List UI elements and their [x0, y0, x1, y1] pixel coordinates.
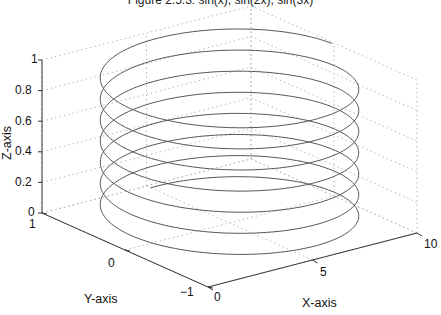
gridlines — [42, 6, 417, 287]
y-axis-label: Y-axis — [84, 292, 118, 306]
z-tick-0.6: 0.6 — [15, 114, 32, 128]
data-curve — [100, 29, 358, 254]
axes-frame — [38, 60, 422, 290]
z-tick-0.4: 0.4 — [15, 144, 32, 158]
z-tick-1: 1 — [31, 52, 38, 66]
x-tick-0: 0 — [214, 290, 221, 304]
z-tick-0.2: 0.2 — [15, 175, 32, 189]
z-tick-0.8: 0.8 — [15, 83, 32, 97]
x-axis-label: X-axis — [302, 296, 337, 310]
x-tick-10: 10 — [424, 237, 437, 251]
x-tick-5: 5 — [320, 265, 327, 279]
y-tick-0: 0 — [108, 256, 115, 270]
z-axis-label: Z-axis — [0, 126, 14, 160]
y-tick-neg1: −1 — [180, 285, 194, 299]
y-tick-1: 1 — [29, 217, 36, 231]
plot-area — [0, 0, 441, 315]
